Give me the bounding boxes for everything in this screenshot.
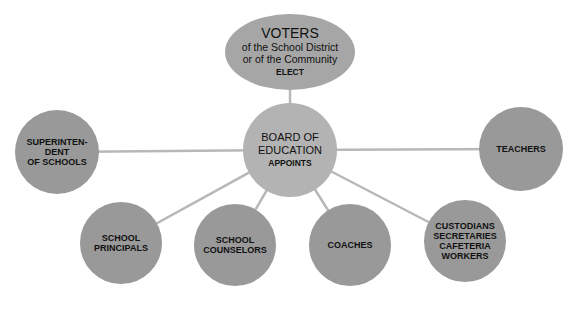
support-staff-label-line: CUSTODIANS <box>435 221 494 231</box>
principals-node: SCHOOLPRINCIPALS <box>80 202 162 284</box>
voters-title: VOTERS <box>261 26 319 42</box>
coaches-node: COACHES <box>309 204 391 286</box>
appoints-label: APPOINTS <box>268 159 311 169</box>
support-staff-label-line: WORKERS <box>442 251 489 261</box>
voters-line-1: of the School District <box>242 42 338 54</box>
superintendent-label-line: OF SCHOOLS <box>27 157 87 167</box>
coaches-label-line: COACHES <box>327 240 372 250</box>
board-of-education-node: BOARD OF EDUCATION APPOINTS <box>243 103 337 197</box>
superintendent-label-line: DENT <box>45 147 70 157</box>
voters-node: VOTERS of the School District or of the … <box>225 14 355 90</box>
principals-label-line: PRINCIPALS <box>94 243 148 253</box>
teachers-node: TEACHERS <box>479 107 563 191</box>
teachers-label-line: TEACHERS <box>496 144 546 154</box>
superintendent-node: SUPERINTEN-DENTOF SCHOOLS <box>15 110 99 194</box>
board-line-2: EDUCATION <box>258 144 322 156</box>
counselors-node: SCHOOLCOUNSELORS <box>194 204 276 286</box>
principals-label-line: SCHOOL <box>102 233 141 243</box>
support-staff-label-line: SECRETARIES <box>433 231 496 241</box>
counselors-label-line: SCHOOL <box>216 235 255 245</box>
elect-label: ELECT <box>276 68 304 78</box>
support-staff-label-line: CAFETERIA <box>439 241 491 251</box>
board-line-1: BOARD OF <box>261 131 318 143</box>
support-staff-node: CUSTODIANSSECRETARIESCAFETERIAWORKERS <box>424 200 506 282</box>
counselors-label-line: COUNSELORS <box>203 245 267 255</box>
superintendent-label-line: SUPERINTEN- <box>26 137 87 147</box>
voters-line-2: or of the Community <box>243 54 338 66</box>
